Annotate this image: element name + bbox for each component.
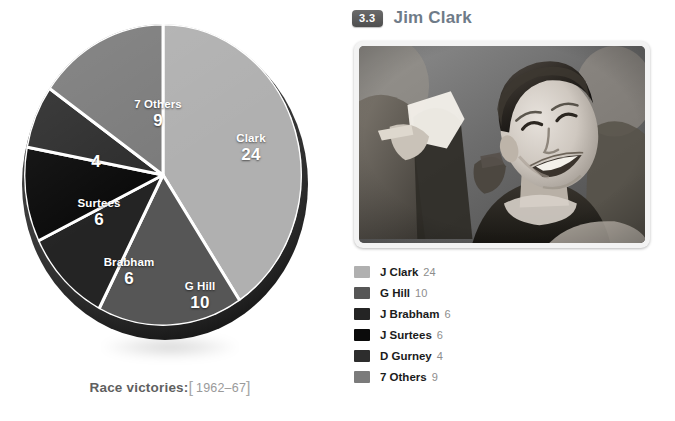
legend-value: 24	[423, 266, 435, 278]
legend-label: J Brabham6	[380, 308, 451, 320]
legend-swatch	[354, 329, 370, 341]
chart-caption-years: 1962–67	[196, 381, 246, 395]
legend-swatch	[354, 308, 370, 320]
chart-caption-title: Race victories:	[89, 380, 188, 395]
legend-value: 10	[415, 287, 427, 299]
profile-photo	[359, 46, 645, 243]
pie-chart-panel: Clark 24 G Hill 10 Brabham 6 Surtees 6 4…	[0, 0, 340, 421]
page-title: Jim Clark	[394, 8, 472, 28]
legend-item: G Hill10	[354, 283, 604, 302]
chart-caption-bracket-open: [	[189, 379, 193, 396]
section-number-badge: 3.3	[352, 10, 383, 27]
profile-panel: 3.3 Jim Clark	[348, 0, 675, 421]
legend-label: G Hill10	[380, 287, 427, 299]
legend-item: J Brabham6	[354, 304, 604, 323]
legend-label: D Gurney4	[380, 350, 443, 362]
legend-item: J Clark24	[354, 262, 604, 281]
legend-value: 6	[437, 329, 443, 341]
chart-caption: Race victories:[1962–67]	[0, 378, 340, 396]
legend-label: J Surtees6	[380, 329, 443, 341]
profile-header: 3.3 Jim Clark	[352, 8, 472, 28]
profile-photo-illustration	[359, 46, 645, 243]
legend-value: 6	[444, 308, 450, 320]
chart-legend: J Clark24G Hill10J Brabham6J Surtees6D G…	[354, 262, 604, 388]
pie-chart: Clark 24 G Hill 10 Brabham 6 Surtees 6 4…	[24, 24, 302, 326]
pie-sheen	[24, 24, 302, 326]
legend-value: 4	[437, 350, 443, 362]
chart-caption-bracket-close: ]	[246, 379, 250, 396]
legend-item: J Surtees6	[354, 325, 604, 344]
profile-photo-frame	[354, 41, 650, 248]
legend-swatch	[354, 287, 370, 299]
legend-swatch	[354, 266, 370, 278]
legend-label: J Clark24	[380, 266, 436, 278]
pie-svg	[24, 24, 302, 326]
legend-item: D Gurney4	[354, 346, 604, 365]
legend-item: 7 Others9	[354, 367, 604, 386]
legend-swatch	[354, 350, 370, 362]
legend-label: 7 Others9	[380, 371, 438, 383]
legend-value: 9	[432, 371, 438, 383]
legend-swatch	[354, 371, 370, 383]
